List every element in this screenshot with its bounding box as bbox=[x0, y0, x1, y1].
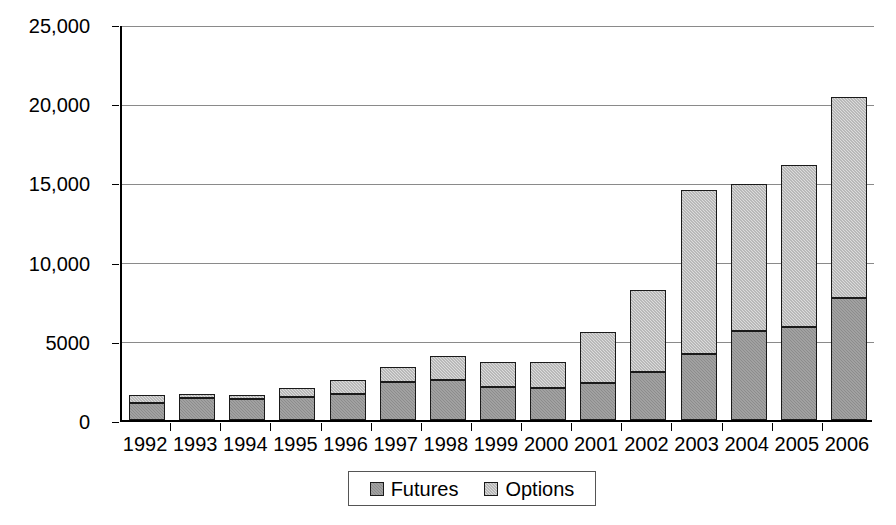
bar-segment-options-1992[interactable] bbox=[129, 395, 165, 403]
x-tick-mark-2001 bbox=[571, 423, 572, 431]
bar-group-1994[interactable] bbox=[229, 24, 265, 420]
x-label-2000: 2000 bbox=[521, 432, 571, 456]
bar-segment-options-2003[interactable] bbox=[681, 190, 717, 354]
x-tick-mark-2004 bbox=[722, 423, 723, 431]
bar-segment-futures-1995[interactable] bbox=[279, 397, 315, 420]
bar-segment-options-1994[interactable] bbox=[229, 395, 265, 399]
bar-segment-options-2006[interactable] bbox=[831, 97, 867, 298]
bar-segment-futures-2002[interactable] bbox=[630, 372, 666, 420]
x-tick-mark-2006 bbox=[822, 423, 823, 431]
bar-segment-futures-1992[interactable] bbox=[129, 403, 165, 420]
bar-segment-futures-2006[interactable] bbox=[831, 298, 867, 420]
bar-segment-futures-2004[interactable] bbox=[731, 331, 767, 420]
y-tick-label-15000: 15,000 bbox=[0, 174, 90, 194]
x-tick-mark-2000 bbox=[521, 423, 522, 431]
bar-group-2005[interactable] bbox=[781, 24, 817, 420]
bar-group-1992[interactable] bbox=[129, 24, 165, 420]
x-tick-mark-1996 bbox=[321, 423, 322, 431]
y-tick-mark-15000 bbox=[112, 184, 119, 185]
bar-segment-futures-2005[interactable] bbox=[781, 327, 817, 420]
bar-group-1996[interactable] bbox=[330, 24, 366, 420]
x-label-2006: 2006 bbox=[822, 432, 872, 456]
bar-group-2001[interactable] bbox=[580, 24, 616, 420]
legend-label-futures: Futures bbox=[391, 479, 459, 499]
chart-page: 0500010,00015,00020,00025,000 1992199319… bbox=[0, 0, 896, 525]
bar-segment-futures-2003[interactable] bbox=[681, 354, 717, 420]
y-tick-mark-10000 bbox=[112, 264, 119, 265]
bar-group-2006[interactable] bbox=[831, 24, 867, 420]
options-swatch-icon bbox=[484, 482, 498, 496]
x-label-1996: 1996 bbox=[321, 432, 371, 456]
bar-segment-futures-2001[interactable] bbox=[580, 383, 616, 420]
y-tick-label-10000: 10,000 bbox=[0, 254, 90, 274]
bar-segment-options-2000[interactable] bbox=[530, 362, 566, 388]
bar-segment-options-2001[interactable] bbox=[580, 332, 616, 383]
bar-group-2000[interactable] bbox=[530, 24, 566, 420]
bar-segment-futures-1994[interactable] bbox=[229, 399, 265, 420]
y-tick-label-25000: 25,000 bbox=[0, 16, 90, 36]
y-tick-label-5000: 5000 bbox=[0, 333, 90, 353]
bar-group-2004[interactable] bbox=[731, 24, 767, 420]
legend-item-futures: Futures bbox=[370, 479, 459, 499]
x-label-2002: 2002 bbox=[621, 432, 671, 456]
bar-segment-futures-1996[interactable] bbox=[330, 394, 366, 420]
bar-group-2002[interactable] bbox=[630, 24, 666, 420]
bar-segment-futures-1997[interactable] bbox=[380, 382, 416, 420]
bar-segment-options-1999[interactable] bbox=[480, 362, 516, 387]
bar-segment-options-1998[interactable] bbox=[430, 356, 466, 380]
x-tick-mark-2005 bbox=[772, 423, 773, 431]
bar-segment-options-1997[interactable] bbox=[380, 367, 416, 382]
y-tick-mark-25000 bbox=[112, 26, 119, 27]
stacked-bar-chart: 0500010,00015,00020,00025,000 1992199319… bbox=[0, 0, 896, 460]
plot-area bbox=[120, 26, 872, 422]
bar-group-1998[interactable] bbox=[430, 24, 466, 420]
x-tick-mark-1999 bbox=[471, 423, 472, 431]
x-tick-mark-2002 bbox=[621, 423, 622, 431]
x-label-1995: 1995 bbox=[270, 432, 320, 456]
bar-group-2003[interactable] bbox=[681, 24, 717, 420]
x-tick-mark-1994 bbox=[220, 423, 221, 431]
x-label-1993: 1993 bbox=[170, 432, 220, 456]
bar-group-1993[interactable] bbox=[179, 24, 215, 420]
bar-segment-futures-2000[interactable] bbox=[530, 388, 566, 420]
x-tick-mark-1993 bbox=[170, 423, 171, 431]
bar-segment-futures-1993[interactable] bbox=[179, 398, 215, 420]
y-tick-label-0: 0 bbox=[0, 412, 90, 432]
chart-legend: Futures Options bbox=[348, 471, 596, 506]
bar-segment-options-2002[interactable] bbox=[630, 290, 666, 372]
legend-label-options: Options bbox=[505, 479, 574, 499]
bar-segment-futures-1999[interactable] bbox=[480, 387, 516, 420]
bar-segment-options-2004[interactable] bbox=[731, 184, 767, 331]
x-tick-mark-1998 bbox=[421, 423, 422, 431]
x-label-1992: 1992 bbox=[120, 432, 170, 456]
x-label-1997: 1997 bbox=[371, 432, 421, 456]
x-label-2005: 2005 bbox=[772, 432, 822, 456]
y-tick-mark-5000 bbox=[112, 343, 119, 344]
y-tick-mark-20000 bbox=[112, 105, 119, 106]
x-label-1998: 1998 bbox=[421, 432, 471, 456]
bar-segment-options-1996[interactable] bbox=[330, 380, 366, 394]
futures-swatch-icon bbox=[370, 482, 384, 496]
bar-segment-options-1993[interactable] bbox=[179, 394, 215, 398]
bar-segment-options-1995[interactable] bbox=[279, 388, 315, 397]
y-tick-label-20000: 20,000 bbox=[0, 95, 90, 115]
bar-segment-futures-1998[interactable] bbox=[430, 380, 466, 420]
bar-segment-options-2005[interactable] bbox=[781, 165, 817, 327]
x-tick-mark-1997 bbox=[371, 423, 372, 431]
x-label-2001: 2001 bbox=[571, 432, 621, 456]
y-tick-mark-0 bbox=[112, 422, 119, 423]
x-tick-mark-1995 bbox=[270, 423, 271, 431]
x-label-1999: 1999 bbox=[471, 432, 521, 456]
x-label-2003: 2003 bbox=[671, 432, 721, 456]
bar-group-1995[interactable] bbox=[279, 24, 315, 420]
x-tick-mark-2003 bbox=[671, 423, 672, 431]
legend-item-options: Options bbox=[484, 479, 574, 499]
bar-group-1999[interactable] bbox=[480, 24, 516, 420]
bar-group-1997[interactable] bbox=[380, 24, 416, 420]
x-label-2004: 2004 bbox=[722, 432, 772, 456]
x-label-1994: 1994 bbox=[220, 432, 270, 456]
